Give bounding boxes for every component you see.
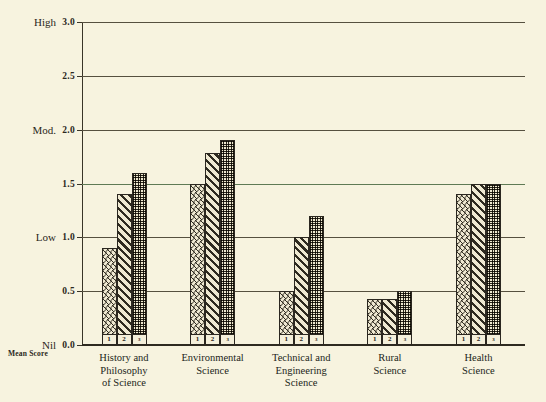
y-tick-mark bbox=[77, 76, 82, 77]
bar-series-1[interactable]: 1 bbox=[456, 194, 471, 345]
y-tick-mark bbox=[77, 237, 82, 238]
y-band-label-low: Low bbox=[18, 231, 56, 243]
category-label: Technical and Engineering Science bbox=[257, 352, 346, 390]
bar-key-label: 3 bbox=[486, 334, 501, 345]
category-label: Rural Science bbox=[346, 352, 435, 377]
y-tick-mark bbox=[77, 22, 82, 23]
y-tick-label-2-5: 2.5 bbox=[62, 71, 75, 81]
bar-series-2[interactable]: 2 bbox=[294, 237, 309, 345]
bar-key-label: 1 bbox=[367, 334, 382, 345]
bar-series-1[interactable]: 1 bbox=[102, 248, 117, 345]
bar-key-label: 2 bbox=[471, 334, 486, 345]
y-tick-label-3-0: 3.0 bbox=[62, 17, 75, 27]
category-label: Environmental Science bbox=[168, 352, 257, 377]
bar-series-2[interactable]: 2 bbox=[117, 194, 132, 345]
bar-series-3[interactable]: 3 bbox=[132, 173, 147, 345]
bar-series-1[interactable]: 1 bbox=[367, 299, 382, 345]
bar-key-label: 1 bbox=[102, 334, 117, 345]
bar-key-label: 1 bbox=[190, 334, 205, 345]
bar-series-1[interactable]: 1 bbox=[279, 291, 294, 345]
y-tick-mark bbox=[77, 130, 82, 131]
category-label: Health Science bbox=[434, 352, 523, 377]
bar-key-label: 3 bbox=[132, 334, 147, 345]
bar-group-bars: 123 bbox=[102, 22, 147, 345]
bar-key-label: 2 bbox=[205, 334, 220, 345]
bar-group-bars: 123 bbox=[456, 22, 501, 345]
bar-key-label: 2 bbox=[117, 334, 132, 345]
bar-group-bars: 123 bbox=[367, 22, 412, 345]
bar-group-bars: 123 bbox=[190, 22, 235, 345]
bar-key-label: 2 bbox=[382, 334, 397, 345]
y-tick-mark bbox=[77, 291, 82, 292]
y-band-label-nil: Nil bbox=[18, 339, 56, 351]
bar-series-3[interactable]: 3 bbox=[486, 184, 501, 346]
bar-key-label: 1 bbox=[279, 334, 294, 345]
bar-key-label: 3 bbox=[309, 334, 324, 345]
bar-key-label: 2 bbox=[294, 334, 309, 345]
bar-series-3[interactable]: 3 bbox=[309, 216, 324, 345]
bar-series-2[interactable]: 2 bbox=[471, 184, 486, 346]
y-band-label-mod: Mod. bbox=[18, 124, 56, 136]
y-tick-label-2-0: 2.0 bbox=[62, 125, 75, 135]
bar-key-label: 3 bbox=[220, 334, 235, 345]
category-label: History and Philosophy of Science bbox=[80, 352, 169, 390]
y-tick-mark bbox=[77, 345, 82, 346]
bar-group-bars: 123 bbox=[279, 22, 324, 345]
bar-series-2[interactable]: 2 bbox=[205, 153, 220, 345]
bar-key-label: 1 bbox=[456, 334, 471, 345]
bar-series-2[interactable]: 2 bbox=[382, 299, 397, 345]
bar-key-label: 3 bbox=[397, 334, 412, 345]
bar-chart: 0.00.51.01.52.02.53.0 Mean Score NilLowM… bbox=[0, 0, 546, 402]
y-band-label-high: High bbox=[18, 16, 56, 28]
bar-series-3[interactable]: 3 bbox=[220, 140, 235, 345]
y-tick-label-1-0: 1.0 bbox=[62, 232, 75, 242]
y-tick-label-0-0: 0.0 bbox=[62, 340, 75, 350]
y-tick-label-1-5: 1.5 bbox=[62, 179, 75, 189]
y-tick-mark bbox=[77, 184, 82, 185]
y-tick-label-0-5: 0.5 bbox=[62, 286, 75, 296]
bar-series-3[interactable]: 3 bbox=[397, 291, 412, 345]
bar-series-1[interactable]: 1 bbox=[190, 184, 205, 346]
